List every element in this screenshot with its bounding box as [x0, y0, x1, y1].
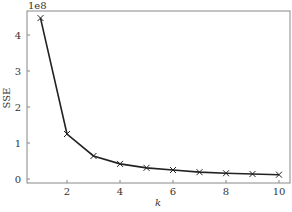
x-tick-label: 10: [273, 186, 286, 197]
x-tick-label: 6: [170, 186, 176, 197]
x-tick-label: 8: [223, 186, 229, 197]
y-tick-label: 1: [15, 138, 21, 149]
y-axis-ticks: 01234: [15, 30, 30, 185]
y-offset-label: 1e8: [28, 0, 47, 11]
y-tick-label: 3: [15, 66, 21, 77]
x-tick-label: 2: [64, 186, 70, 197]
plot-frame: [27, 11, 290, 183]
x-axis-label: k: [155, 197, 161, 208]
y-tick-label: 4: [15, 30, 21, 41]
data-markers: [38, 15, 283, 178]
y-axis-label: SSE: [1, 88, 12, 109]
y-tick-label: 2: [15, 102, 21, 113]
elbow-chart: 01234 246810 1e8 SSE k: [0, 0, 292, 212]
y-tick-label: 0: [15, 174, 21, 185]
x-tick-label: 4: [117, 186, 123, 197]
sse-line: [41, 18, 280, 175]
